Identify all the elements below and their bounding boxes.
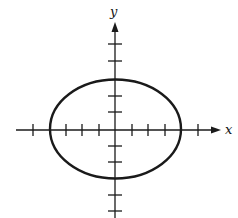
y-axis-arrow-icon — [112, 22, 119, 32]
y-axis-label: y — [109, 4, 118, 19]
y-axis — [108, 22, 122, 218]
ellipse-diagram: y x — [0, 0, 238, 218]
x-axis-arrow-icon — [211, 127, 221, 134]
x-axis — [16, 124, 221, 136]
x-axis-label: x — [225, 122, 233, 137]
